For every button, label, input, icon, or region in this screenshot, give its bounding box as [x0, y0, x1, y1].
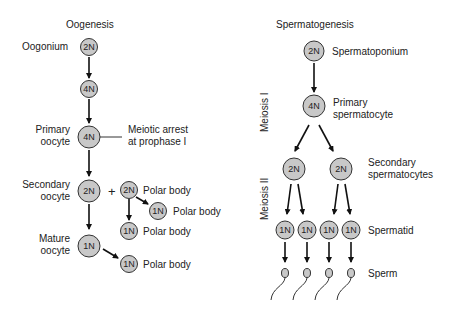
svg-text:4N: 4N: [83, 132, 95, 142]
polar-body-2n-cell: 2N: [121, 182, 138, 199]
primary-oocyte-cell: 4N: [78, 126, 100, 148]
secondary-spermatocyte-cell-1: 2N: [283, 158, 305, 180]
secondary-spermatocytes-label-2: spermatocytes: [368, 169, 433, 180]
intermediate-4n-cell: 4N: [81, 81, 98, 98]
gametogenesis-diagram: Oogenesis Oogonium 2N 4N Primary oocyte …: [0, 0, 451, 314]
svg-text:1N: 1N: [301, 225, 313, 235]
svg-text:4N: 4N: [83, 84, 95, 94]
sperm-label: Sperm: [368, 268, 397, 279]
mature-oocyte-label-2: oocyte: [41, 245, 71, 256]
secondary-oocyte-cell: 2N: [78, 180, 100, 202]
primary-oocyte-label-2: oocyte: [41, 136, 71, 147]
secondary-oocyte-label-2: oocyte: [41, 191, 71, 202]
secondary-spermatocytes-label-1: Secondary: [368, 157, 416, 168]
sperm-1: [271, 269, 289, 301]
svg-text:1N: 1N: [83, 241, 95, 251]
polar-body-label-4: Polar body: [143, 259, 191, 270]
svg-text:2N: 2N: [83, 42, 95, 52]
meiosis-1-label: Meiosis I: [259, 93, 270, 132]
arrow-mature-to-polar: [103, 249, 118, 258]
sperm-4: [337, 269, 355, 301]
polar-body-1n-right-cell: 1N: [150, 203, 167, 220]
spermatogenesis-title: Spermatogenesis: [276, 19, 354, 30]
sperm-2: [293, 269, 311, 301]
polar-body-label-3: Polar body: [143, 226, 191, 237]
svg-text:1N: 1N: [345, 225, 357, 235]
polar-body-label-1: Polar body: [143, 185, 191, 196]
spermatogonium-cell: 2N: [304, 41, 324, 61]
arrow-primary-to-secondary-right: [319, 125, 333, 151]
svg-text:1N: 1N: [123, 259, 135, 269]
secondary-oocyte-label-1: Secondary: [22, 179, 70, 190]
meiotic-arrest-note-1: Meiotic arrest: [128, 124, 188, 135]
arrow-sec2-to-spermatid-3: [334, 184, 338, 214]
svg-text:4N: 4N: [308, 101, 320, 111]
plus-sign: +: [108, 184, 116, 199]
mature-oocyte-label-1: Mature: [39, 233, 71, 244]
polar-body-label-2: Polar body: [173, 206, 221, 217]
svg-text:2N: 2N: [308, 46, 320, 56]
arrow-primary-to-secondary-left: [295, 125, 309, 151]
polar-body-1n-down-cell: 1N: [121, 223, 138, 240]
svg-text:1N: 1N: [279, 225, 291, 235]
oogonium-label: Oogonium: [22, 41, 68, 52]
oogonium-cell: 2N: [81, 39, 98, 56]
meiotic-arrest-note-2: at prophase I: [128, 136, 186, 147]
spermatid-cell-4: 1N: [342, 221, 360, 239]
spermatid-cell-2: 1N: [298, 221, 316, 239]
primary-spermatocyte-label-1: Primary: [333, 97, 367, 108]
arrow-sec1-to-spermatid-2: [298, 184, 303, 214]
spermatogonium-label: Spermatoponium: [332, 46, 408, 57]
svg-text:2N: 2N: [335, 164, 347, 174]
svg-text:1N: 1N: [123, 226, 135, 236]
sperm-3: [315, 269, 333, 301]
primary-spermatocyte-cell: 4N: [303, 95, 325, 117]
arrow-polar-2n-to-1n-right: [136, 197, 148, 204]
spermatid-cell-1: 1N: [276, 221, 294, 239]
oogenesis-title: Oogenesis: [66, 19, 114, 30]
primary-spermatocyte-label-2: spermatocyte: [333, 109, 393, 120]
mature-oocyte-cell: 1N: [78, 235, 100, 257]
svg-text:2N: 2N: [83, 186, 95, 196]
svg-text:2N: 2N: [288, 164, 300, 174]
svg-text:1N: 1N: [152, 206, 164, 216]
primary-oocyte-label-1: Primary: [36, 124, 70, 135]
svg-text:2N: 2N: [123, 185, 135, 195]
arrow-sec1-to-spermatid-1: [287, 184, 291, 214]
arrow-sec2-to-spermatid-4: [345, 184, 350, 214]
spermatid-label: Spermatid: [368, 225, 414, 236]
spermatid-cell-3: 1N: [320, 221, 338, 239]
svg-text:1N: 1N: [323, 225, 335, 235]
secondary-spermatocyte-cell-2: 2N: [330, 158, 352, 180]
meiosis-2-label: Meiosis II: [259, 178, 270, 220]
polar-body-1n-bottom-cell: 1N: [121, 256, 138, 273]
